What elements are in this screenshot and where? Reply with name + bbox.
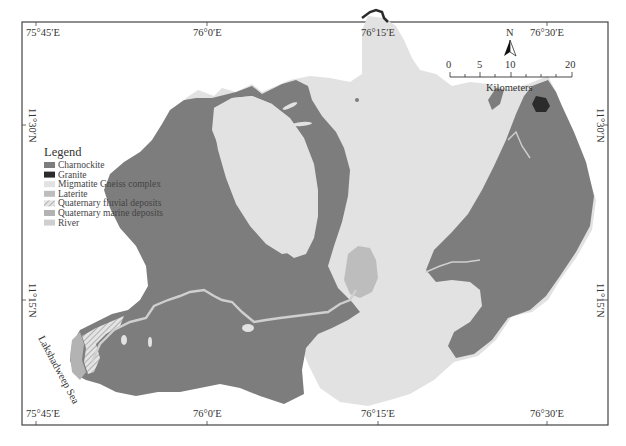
legend-swatch-4 xyxy=(44,191,55,197)
north-label: N xyxy=(506,27,514,38)
latitude-label-right-2: 11°15′N xyxy=(595,283,606,318)
longitude-label-top-1: 75°45′E xyxy=(26,27,60,38)
legend-label-7: River xyxy=(58,218,80,228)
latitude-label-left-2: 11°15′N xyxy=(27,283,38,318)
legend-label-6: Quaternary marine deposits xyxy=(58,208,163,218)
latitude-label-left-1: 11°30′N xyxy=(27,108,38,143)
longitude-label-top-3: 76°15′E xyxy=(361,27,395,38)
charnockite-spot xyxy=(355,98,359,102)
legend-swatch-7 xyxy=(44,220,55,226)
longitude-label-bottom-1: 75°45′E xyxy=(26,408,60,419)
scale-tick-10: 10 xyxy=(505,59,516,70)
scale-tick-20: 20 xyxy=(565,59,576,70)
legend-label-4: Laterite xyxy=(58,189,88,199)
legend-swatch-6 xyxy=(44,210,55,216)
longitude-label-bottom-3: 76°15′E xyxy=(361,408,395,419)
longitude-label-bottom-2: 76°0′E xyxy=(193,408,222,419)
scale-unit: Kilometers xyxy=(486,82,533,93)
legend-swatch-3 xyxy=(44,181,55,187)
scale-tick-5: 5 xyxy=(477,59,482,70)
legend-swatch-5 xyxy=(44,200,55,206)
legend-title: Legend xyxy=(44,145,82,159)
legend-swatch-2 xyxy=(44,172,55,178)
scale-tick-0: 0 xyxy=(446,59,451,70)
longitude-label-bottom-4: 76°30′E xyxy=(530,408,564,419)
legend-label-2: Granite xyxy=(58,170,87,180)
legend-label-5: Quaternary fluvial deposits xyxy=(58,198,162,208)
legend-label-3: Migmatite Gneiss complex xyxy=(58,179,161,189)
longitude-label-top-4: 76°30′E xyxy=(530,27,564,38)
longitude-label-top-2: 76°0′E xyxy=(193,27,222,38)
geological-map: 75°45′E 76°0′E 76°15′E 76°30′E 75°45′E 7… xyxy=(0,0,626,446)
legend-swatch-1 xyxy=(44,162,55,168)
legend-label-1: Charnockite xyxy=(58,160,104,170)
latitude-label-right-1: 11°30′N xyxy=(595,108,606,143)
